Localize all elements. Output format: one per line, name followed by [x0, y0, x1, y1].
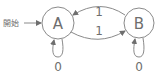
loop-b-arrow [134, 38, 144, 57]
state-b-label: B [134, 15, 144, 33]
transition-b-to-a-label: 1 [95, 5, 103, 19]
state-diagram: 開始 A B 1 1 0 0 [0, 0, 160, 76]
start-indicator: 開始 [3, 18, 41, 28]
loop-b-label: 0 [135, 60, 143, 74]
loop-a-label: 0 [54, 60, 62, 74]
state-b: B [124, 8, 154, 38]
transition-b-self-loop: 0 [134, 38, 144, 74]
start-label: 開始 [3, 18, 19, 28]
state-a-label: A [53, 15, 64, 33]
transition-a-to-b: 1 [71, 24, 125, 39]
loop-a-arrow [53, 39, 63, 57]
transition-b-to-a: 1 [73, 5, 125, 19]
transition-a-to-b-label: 1 [95, 24, 103, 38]
transition-a-self-loop: 0 [53, 39, 63, 74]
state-a: A [42, 7, 74, 39]
